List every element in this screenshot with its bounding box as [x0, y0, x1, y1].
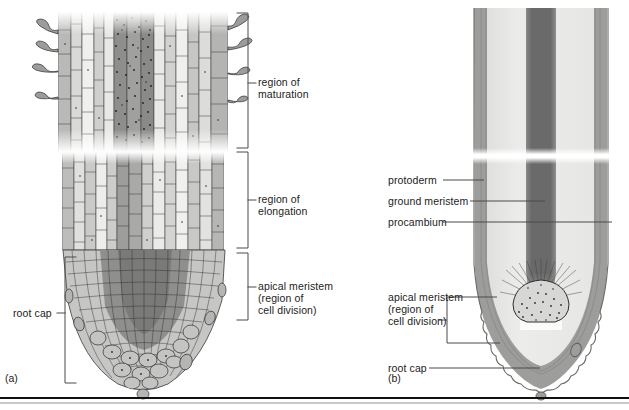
root-tip-cellular-drawing	[63, 250, 226, 399]
maturation-zone-tissue	[58, 12, 228, 152]
label-ground-meristem: ground meristem	[388, 195, 468, 207]
root-anatomy-figure: region ofmaturation region ofelongation …	[0, 0, 629, 410]
bracket-region-of-elongation	[237, 152, 248, 248]
figure-canvas	[0, 0, 629, 410]
label-root-cap-a: root cap	[13, 307, 52, 319]
label-apical-meristem-a: apical meristem(region ofcell division)	[258, 280, 333, 317]
label-apical-meristem-b: apical meristem(region ofcell division)	[388, 291, 463, 328]
panel-b-id: (b)	[388, 372, 401, 384]
label-procambium: procambium	[388, 216, 447, 228]
panel-a-drawing	[32, 12, 256, 399]
panel-a-id: (a)	[5, 372, 18, 384]
label-region-of-elongation: region ofelongation	[258, 193, 308, 217]
bracket-region-of-maturation	[237, 13, 248, 148]
elongation-zone-tissue	[62, 152, 224, 250]
bracket-apical-meristem	[237, 253, 248, 320]
root-hairs-left	[32, 19, 58, 99]
label-protoderm: protoderm	[388, 174, 437, 186]
label-region-of-maturation: region ofmaturation	[258, 76, 309, 100]
